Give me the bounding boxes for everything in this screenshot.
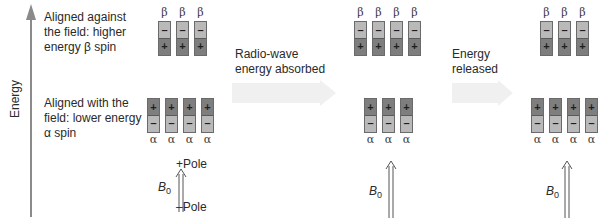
alpha-symbol: α [585,133,598,146]
beta-symbol: β [558,6,571,19]
negative-pole-icon: – [202,115,213,133]
energy-axis-line [30,14,32,217]
alpha-spin-magnet: +– [382,98,395,133]
positive-pole-icon: + [184,99,195,116]
positive-pole-icon: + [177,38,188,56]
positive-pole-icon: + [541,38,552,56]
beta-symbol: β [540,6,553,19]
alpha-symbol: α [400,133,413,146]
positive-pole-icon: + [365,99,376,116]
beta-symbol: β [158,6,171,19]
alpha-spin-magnet: +– [585,98,598,133]
positive-pole-icon: + [159,38,170,56]
b0-label-2: B0 [369,184,382,200]
alpha-spin-magnet: +– [400,98,413,133]
energy-released-label: Energy released [452,47,498,77]
negative-pole-icon: – [391,22,402,39]
transition-1-line-2: energy absorbed [235,62,325,77]
beta-spin-magnet: –+ [576,21,589,56]
transition-2-line-2: released [452,62,498,77]
positive-pole-icon: + [148,99,159,116]
beta-spin-magnet: –+ [540,21,553,56]
alpha-desc-line-3: α spin [44,126,141,141]
positive-pole-icon: + [550,99,561,116]
beta-symbol: β [372,6,385,19]
alpha-symbol: α [183,133,196,146]
positive-pole-icon: + [401,99,412,116]
positive-pole-icon: + [391,38,402,56]
negative-pole-icon: – [568,115,579,133]
negative-pole-icon: – [177,22,188,39]
beta-desc-line-2: the field: higher [44,25,126,40]
positive-pole-icon: + [355,38,366,56]
alpha-spin-magnet: +– [364,98,377,133]
negative-pole-icon: – [383,115,394,133]
alpha-symbol: α [201,133,214,146]
positive-pole-icon: + [383,99,394,116]
negative-pole-icon: – [409,22,420,39]
negative-pole-icon: – [184,115,195,133]
alpha-symbol: α [165,133,178,146]
negative-pole-icon: – [159,22,170,39]
positive-pole-label: +Pole [176,157,207,171]
alpha-symbol: α [364,133,377,146]
b0-label-3: B0 [546,184,559,200]
positive-pole-icon: + [577,38,588,56]
beta-spin-magnet: –+ [194,21,207,56]
negative-pole-icon: – [148,115,159,133]
negative-pole-icon: – [365,115,376,133]
beta-spin-magnet: –+ [158,21,171,56]
positive-pole-icon: + [559,38,570,56]
alpha-spin-magnet: +– [531,98,544,133]
positive-pole-icon: + [195,38,206,56]
alpha-spin-magnet: +– [147,98,160,133]
negative-pole-icon: – [401,115,412,133]
energy-axis-label: Energy [8,74,22,124]
positive-pole-icon: + [409,38,420,56]
b0-field-arrow-2-icon [385,160,397,218]
beta-spin-magnet: –+ [558,21,571,56]
alpha-spin-magnet: +– [165,98,178,133]
beta-symbol: β [354,6,367,19]
alpha-symbol: α [531,133,544,146]
alpha-symbol: α [549,133,562,146]
alpha-spin-magnet: +– [201,98,214,133]
beta-symbol: β [176,6,189,19]
beta-desc-line-3: energy β spin [44,40,126,55]
negative-pole-icon: – [166,115,177,133]
beta-spin-magnet: –+ [372,21,385,56]
negative-pole-icon: – [559,22,570,39]
alpha-desc-line-1: Aligned with the [44,96,141,111]
beta-symbol: β [390,6,403,19]
beta-desc-line-1: Aligned against [44,10,126,25]
radio-wave-absorbed-label: Radio-wave energy absorbed [235,47,325,77]
transition-2-line-1: Energy [452,47,498,62]
b0-label-1: B0 [158,180,171,196]
b0-field-arrow-3-icon [561,160,573,218]
alpha-spin-magnet: +– [183,98,196,133]
positive-pole-icon: + [373,38,384,56]
alpha-spin-description: Aligned with the field: lower energy α s… [44,96,141,141]
negative-pole-icon: – [355,22,366,39]
beta-spin-magnet: –+ [176,21,189,56]
negative-pole-icon: – [532,115,543,133]
alpha-symbol: α [567,133,580,146]
transition-1-line-1: Radio-wave [235,47,325,62]
beta-symbol: β [408,6,421,19]
positive-pole-icon: + [202,99,213,116]
negative-pole-icon: – [541,22,552,39]
beta-spin-magnet: –+ [390,21,403,56]
energy-axis-arrowhead-icon [26,4,36,20]
energy-released-arrow-icon [452,80,514,106]
negative-pole-icon: – [550,115,561,133]
negative-pole-icon: – [577,22,588,39]
alpha-desc-line-2: field: lower energy [44,111,141,126]
positive-pole-icon: + [532,99,543,116]
negative-pole-icon: – [586,115,597,133]
beta-spin-magnet: –+ [408,21,421,56]
positive-pole-icon: + [586,99,597,116]
negative-pole-icon: – [373,22,384,39]
positive-pole-icon: + [568,99,579,116]
positive-pole-icon: + [166,99,177,116]
beta-symbol: β [576,6,589,19]
